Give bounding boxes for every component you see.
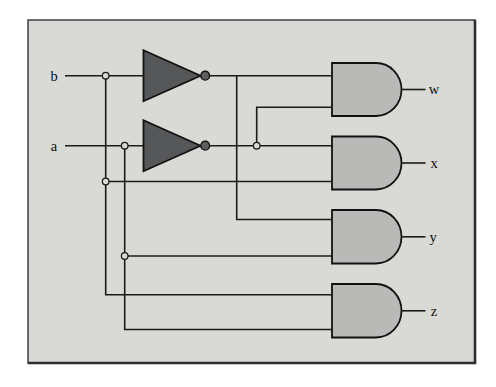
and-gate-x bbox=[332, 137, 402, 190]
and-gate-y bbox=[332, 210, 401, 264]
input-label-b: b bbox=[50, 68, 57, 84]
junction-dot-a-prime bbox=[253, 142, 260, 149]
junction-dot-a-branch bbox=[121, 253, 128, 260]
and-gate-w bbox=[332, 63, 402, 116]
not-gate-a-bubble bbox=[201, 141, 210, 150]
junction-dot-b-branch bbox=[102, 178, 109, 185]
not-gate-b-bubble bbox=[201, 71, 210, 80]
and-gate-z bbox=[332, 284, 402, 338]
output-label-x: x bbox=[430, 155, 438, 171]
circuit-figure: bawxyz bbox=[0, 0, 496, 387]
output-label-y: y bbox=[429, 229, 437, 245]
circuit-diagram: bawxyz bbox=[0, 0, 496, 387]
output-label-z: z bbox=[431, 303, 438, 319]
junction-dot-a-line bbox=[121, 142, 128, 149]
output-label-w: w bbox=[429, 81, 440, 97]
input-label-a: a bbox=[51, 138, 58, 154]
junction-dot-b-line bbox=[102, 72, 109, 79]
